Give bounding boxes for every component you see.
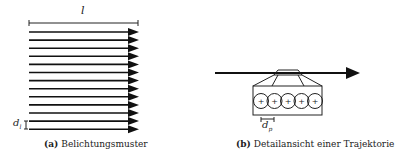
diameter-label: dp <box>262 119 272 132</box>
caption-a: (a)Belichtungsmuster <box>44 139 148 149</box>
diagram-canvas: +++++ <box>0 0 417 162</box>
svg-text:+: + <box>285 97 292 106</box>
caption-b: (b)Detailansicht einer Trajektorie <box>236 139 394 149</box>
svg-text:+: + <box>298 97 305 106</box>
svg-text:+: + <box>271 97 278 106</box>
svg-text:+: + <box>258 97 265 106</box>
svg-text:+: + <box>312 97 319 106</box>
trajectory-arrow <box>215 67 360 79</box>
length-dimension <box>29 20 138 26</box>
exposure-lines <box>29 28 139 133</box>
length-label: l <box>81 4 85 17</box>
spacing-label: dl <box>13 117 21 130</box>
laser-spots: +++++ <box>254 94 323 109</box>
spacing-bracket <box>24 121 28 129</box>
